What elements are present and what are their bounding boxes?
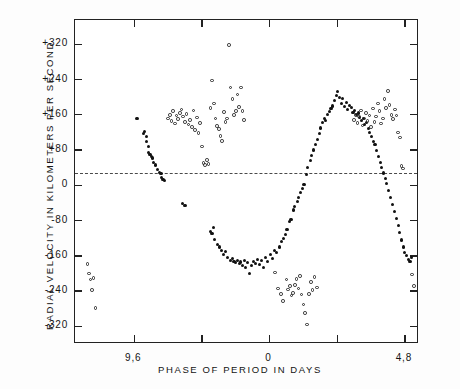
data-point-open bbox=[86, 262, 90, 266]
data-point-open bbox=[390, 113, 394, 117]
data-point-open bbox=[286, 288, 290, 292]
data-point-filled bbox=[321, 121, 324, 124]
data-point-filled bbox=[395, 217, 398, 220]
y-axis-tick bbox=[75, 114, 82, 115]
data-point-open bbox=[373, 120, 377, 124]
data-point-open bbox=[242, 118, 246, 122]
data-point-open bbox=[285, 278, 289, 282]
data-point-filled bbox=[296, 200, 299, 203]
data-point-filled bbox=[222, 253, 225, 256]
data-point-filled bbox=[391, 203, 394, 206]
y-axis-tick bbox=[75, 79, 82, 80]
data-point-filled bbox=[345, 101, 348, 104]
y-axis-tick bbox=[410, 185, 417, 186]
data-point-open bbox=[381, 117, 385, 121]
data-point-filled bbox=[302, 183, 305, 186]
data-point-filled bbox=[275, 251, 278, 254]
data-point-open bbox=[195, 116, 199, 120]
data-point-filled bbox=[377, 155, 380, 158]
data-point-open bbox=[388, 103, 392, 107]
data-point-filled bbox=[380, 166, 383, 169]
data-point-open bbox=[393, 108, 397, 112]
x-axis-tick-label: 0 bbox=[247, 352, 291, 363]
data-point-open bbox=[302, 303, 306, 307]
data-point-filled bbox=[309, 159, 312, 162]
x-axis-tick bbox=[404, 335, 405, 342]
data-point-filled bbox=[312, 148, 315, 151]
data-point-open bbox=[207, 162, 211, 166]
data-point-open bbox=[173, 122, 177, 126]
data-point-open bbox=[217, 127, 221, 131]
data-point-open bbox=[313, 275, 317, 279]
y-axis-tick bbox=[75, 220, 82, 221]
y-axis-tick-label: -240 bbox=[12, 284, 68, 295]
data-point-open bbox=[171, 109, 175, 113]
y-axis-tick bbox=[410, 79, 417, 80]
data-point-filled bbox=[151, 156, 154, 159]
data-point-open bbox=[87, 272, 91, 276]
data-point-open bbox=[401, 167, 405, 171]
data-point-filled bbox=[292, 208, 295, 211]
data-point-open bbox=[315, 286, 319, 290]
data-point-filled bbox=[250, 264, 253, 267]
data-point-open bbox=[225, 117, 229, 121]
data-point-open bbox=[410, 273, 414, 277]
data-point-filled bbox=[397, 224, 400, 227]
data-point-filled bbox=[282, 237, 285, 240]
data-point-filled bbox=[284, 233, 287, 236]
y-axis-tick-label: +320 bbox=[12, 37, 68, 48]
data-point-filled bbox=[408, 260, 411, 263]
data-point-open bbox=[311, 288, 315, 292]
data-point-open bbox=[379, 122, 383, 126]
data-point-filled bbox=[145, 140, 148, 143]
y-axis-tick bbox=[75, 255, 82, 256]
data-point-filled bbox=[370, 135, 373, 138]
data-point-filled bbox=[389, 196, 392, 199]
data-point-open bbox=[222, 110, 226, 114]
data-point-open bbox=[383, 97, 387, 101]
y-axis-tick bbox=[75, 44, 82, 45]
data-point-open bbox=[368, 114, 372, 118]
data-point-filled bbox=[385, 182, 388, 185]
data-point-open bbox=[398, 136, 402, 140]
data-point-open bbox=[369, 125, 373, 129]
data-point-open bbox=[168, 113, 172, 117]
data-point-open bbox=[386, 89, 390, 93]
data-point-open bbox=[361, 124, 365, 128]
data-point-open bbox=[298, 274, 302, 278]
y-axis-tick bbox=[410, 44, 417, 45]
data-point-open bbox=[92, 276, 96, 280]
data-point-open bbox=[276, 287, 280, 291]
x-axis-tick bbox=[134, 335, 135, 342]
data-point-filled bbox=[400, 238, 403, 241]
data-point-open bbox=[209, 106, 213, 110]
data-point-open bbox=[371, 107, 375, 111]
data-point-open bbox=[236, 93, 240, 97]
data-point-filled bbox=[387, 189, 390, 192]
x-axis-tick bbox=[201, 335, 202, 342]
y-axis-tick-label: +160 bbox=[12, 108, 68, 119]
data-point-open bbox=[200, 145, 204, 149]
data-point-filled bbox=[224, 250, 227, 253]
data-point-filled bbox=[331, 104, 334, 107]
data-point-filled bbox=[410, 256, 413, 259]
data-point-filled bbox=[373, 143, 376, 146]
data-point-filled bbox=[297, 196, 300, 199]
data-point-filled bbox=[341, 97, 344, 100]
data-point-open bbox=[94, 306, 98, 310]
y-axis-tick bbox=[410, 220, 417, 221]
data-point-open bbox=[185, 112, 189, 116]
data-point-open bbox=[395, 114, 399, 118]
data-point-open bbox=[210, 79, 214, 83]
x-axis-tick bbox=[404, 20, 405, 27]
y-axis-tick-label: +240 bbox=[12, 73, 68, 84]
data-point-filled bbox=[289, 218, 292, 221]
data-point-open bbox=[214, 117, 218, 121]
y-axis-tick bbox=[410, 290, 417, 291]
data-point-open bbox=[192, 109, 196, 113]
data-point-filled bbox=[213, 238, 216, 241]
data-point-open bbox=[224, 120, 228, 124]
data-point-filled bbox=[280, 240, 283, 243]
data-point-filled bbox=[301, 187, 304, 190]
data-point-open bbox=[227, 43, 231, 47]
